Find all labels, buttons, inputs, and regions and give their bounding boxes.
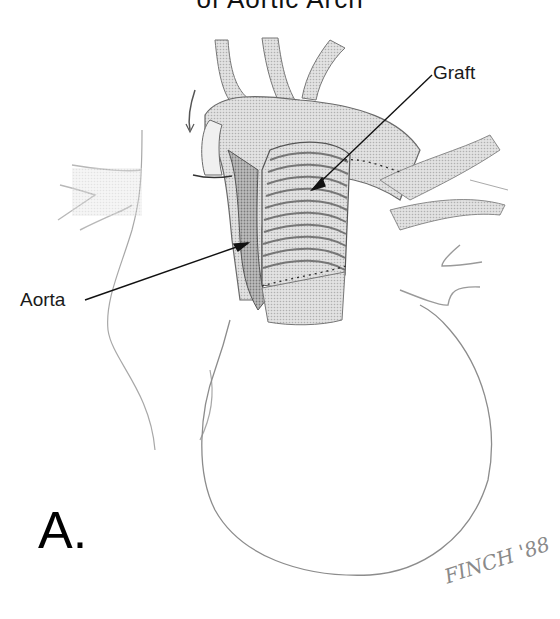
heart-outline [202,305,492,575]
graft-label: Graft [433,62,475,84]
aorta-label: Aorta [20,289,65,311]
innominate-loop [202,120,222,175]
left-atrial-appendage [400,245,482,305]
panel-label: A. [38,504,87,556]
